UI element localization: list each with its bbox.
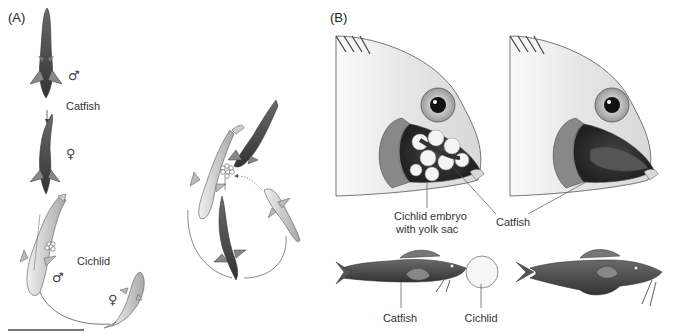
cichlid-label-bottom: Cichlid xyxy=(464,312,497,325)
catfish-label-top: Catfish xyxy=(496,216,530,229)
cichlid-embryo-label-1: Cichlid embryo xyxy=(394,210,467,223)
catfish-spawning-bottom xyxy=(214,196,246,280)
cichlid-female-symbol: ♀ xyxy=(108,292,118,307)
panel-a-label: (A) xyxy=(8,10,25,25)
cichlid-yolk-ball xyxy=(466,256,498,288)
figure-illustration xyxy=(0,0,677,336)
cichlid-label: Cichlid xyxy=(77,255,110,268)
cichlid-approaching xyxy=(264,189,300,242)
catfish-male xyxy=(30,8,62,98)
egg-cluster-icon-2 xyxy=(221,164,235,179)
cichlid-embryo-label-2: with yolk sac xyxy=(396,223,458,236)
cichlid-male-symbol: ♂ xyxy=(52,270,64,285)
catfish-swollen xyxy=(516,250,662,307)
catfish-male-symbol: ♂ xyxy=(68,68,80,83)
fish-head-with-catfish xyxy=(510,36,658,196)
scale-bar xyxy=(8,329,84,331)
cichlid-spawning xyxy=(190,125,244,219)
circling-path-a xyxy=(40,292,110,324)
panel-b-label: (B) xyxy=(330,10,347,25)
catfish-label-bottom: Catfish xyxy=(383,312,417,325)
catfish-label: Catfish xyxy=(66,100,100,113)
catfish-female-symbol: ♀ xyxy=(66,146,76,161)
catfish-female xyxy=(30,114,60,194)
catfish-with-cichlid-in-mouth xyxy=(336,250,498,292)
fish-head-with-brood xyxy=(336,36,484,196)
